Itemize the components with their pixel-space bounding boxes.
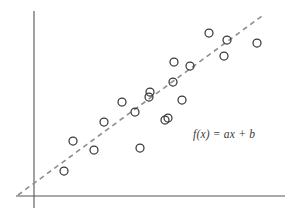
scatter-point	[90, 146, 98, 154]
trend-line-dashed	[18, 16, 262, 195]
scatter-plot-figure: f(x) = ax + b	[0, 0, 293, 220]
scatter-point-group	[60, 29, 261, 175]
scatter-point	[178, 96, 186, 104]
scatter-point	[253, 39, 261, 47]
scatter-point	[146, 88, 154, 96]
scatter-point	[205, 29, 213, 37]
scatter-point	[136, 144, 144, 152]
scatter-point	[118, 98, 126, 106]
scatter-point	[60, 167, 68, 175]
scatter-point	[220, 52, 228, 60]
plot-canvas	[0, 0, 293, 220]
equation-annotation: f(x) = ax + b	[193, 128, 255, 140]
scatter-point	[69, 137, 77, 145]
scatter-point	[100, 118, 108, 126]
scatter-point	[170, 58, 178, 66]
